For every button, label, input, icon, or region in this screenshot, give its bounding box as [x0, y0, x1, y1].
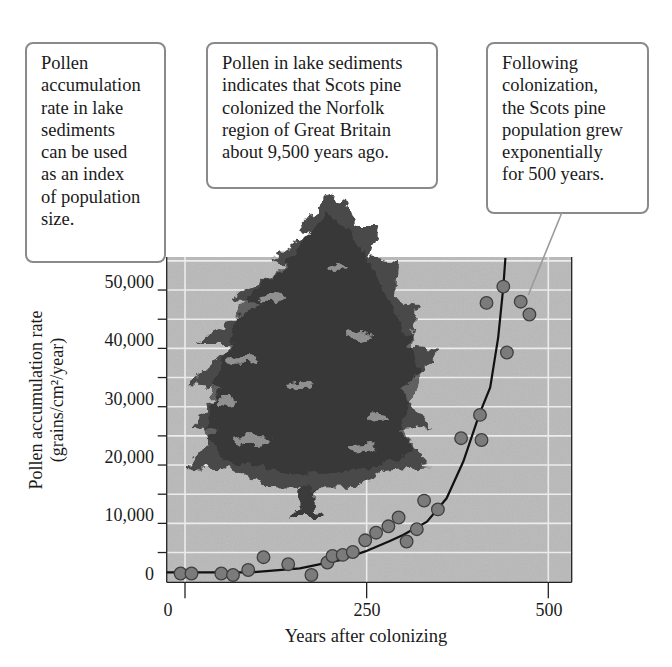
data-point [497, 280, 510, 293]
data-point [382, 520, 395, 533]
data-point [501, 346, 514, 359]
data-point [257, 551, 270, 564]
data-point [185, 567, 198, 580]
data-point [475, 434, 488, 447]
x-tick-label: 250 [337, 600, 397, 621]
y-axis-title-line-2: (grains/cm²/year) [47, 280, 68, 520]
y-tick-label: 10,000 [84, 505, 154, 526]
data-point [432, 503, 445, 516]
y-tick-label: 50,000 [84, 272, 154, 293]
data-point [514, 295, 527, 308]
data-point [347, 546, 360, 559]
data-point [227, 569, 240, 582]
y-tick-label: 30,000 [84, 389, 154, 410]
y-tick-label: 40,000 [84, 330, 154, 351]
data-point [359, 534, 372, 547]
data-point [282, 558, 295, 571]
y-tick-label: 0 [84, 564, 154, 585]
data-point [392, 511, 405, 524]
y-axis-title-line-1: Pollen accumulation rate [26, 280, 47, 520]
data-point [523, 308, 536, 321]
x-axis-title: Years after colonizing [266, 626, 466, 647]
y-axis-title: Pollen accumulation rate (grains/cm²/yea… [26, 280, 68, 520]
data-point [480, 297, 493, 310]
data-point [418, 494, 431, 507]
data-point [474, 409, 487, 422]
data-point [370, 526, 383, 539]
data-point [242, 564, 255, 577]
y-tick-label: 20,000 [84, 447, 154, 468]
x-tick-label: 500 [519, 600, 579, 621]
x-tick-label: 0 [138, 600, 198, 621]
data-point [400, 535, 413, 548]
data-point [455, 432, 468, 445]
data-point [411, 523, 424, 536]
data-point [305, 569, 318, 582]
data-point [215, 567, 228, 580]
